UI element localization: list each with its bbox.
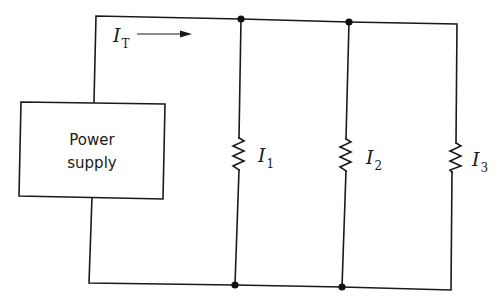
branch-3-current-label: I3 — [471, 148, 488, 175]
resistor-3-icon — [450, 143, 461, 172]
parallel-circuit-diagram: Power supply IT I1 I2 I3 — [0, 0, 496, 296]
branch-1-current-label: I1 — [257, 144, 274, 171]
resistor-1-icon — [233, 138, 244, 170]
total-current-indicator: IT — [112, 24, 192, 51]
branch-2-lower-wire — [342, 171, 346, 287]
branch-2-current-label: I2 — [365, 146, 382, 173]
junction-node-bottom-1 — [231, 281, 238, 288]
power-supply-label-line2: supply — [67, 154, 117, 172]
junction-node-bottom-2 — [338, 283, 345, 290]
junction-node-top-1 — [237, 15, 244, 22]
power-supply: Power supply — [19, 102, 165, 199]
branch-2: I2 — [340, 22, 382, 287]
branch-1: I1 — [233, 19, 274, 285]
branch-1-upper-wire — [239, 19, 241, 138]
power-supply-box — [19, 102, 165, 199]
total-current-label: IT — [112, 24, 130, 51]
resistor-2-icon — [340, 139, 351, 171]
branch-2-upper-wire — [346, 22, 349, 139]
branch-3: I3 — [450, 143, 488, 175]
junction-node-top-2 — [345, 18, 352, 25]
arrow-right-icon — [180, 31, 192, 38]
branch-1-lower-wire — [235, 170, 239, 285]
power-supply-label-line1: Power — [69, 131, 115, 149]
